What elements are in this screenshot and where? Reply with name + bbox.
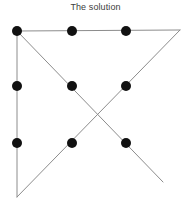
solution-line-segment-4 [17, 31, 163, 182]
dot-middle-right [121, 81, 131, 91]
nine-dots-puzzle-figure: The solution [0, 0, 191, 209]
dot-middle-center [67, 81, 77, 91]
dot-bottom-left [12, 138, 22, 148]
dot-top-right [121, 26, 131, 36]
solution-line-segment-2 [17, 30, 180, 197]
dot-bottom-right [121, 138, 131, 148]
dot-top-center [67, 26, 77, 36]
dot-bottom-center [67, 138, 77, 148]
puzzle-canvas [0, 0, 191, 209]
dot-middle-left [12, 81, 22, 91]
solution-path-group [17, 30, 180, 197]
figure-title: The solution [0, 1, 191, 13]
solution-line-segment-1 [17, 30, 180, 31]
dot-top-left [12, 26, 22, 36]
